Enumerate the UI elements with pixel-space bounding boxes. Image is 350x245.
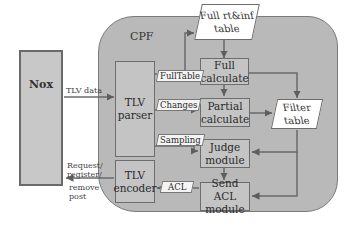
judge-module-line1: Judge bbox=[210, 141, 241, 154]
partial-calculate-line1: Partial bbox=[207, 100, 242, 113]
edge-tag-acl: ACL bbox=[160, 181, 195, 193]
tlv-encoder-line2: encoder bbox=[113, 182, 156, 195]
partial-calculate-line2: calculate bbox=[201, 113, 249, 126]
full-rt-inf-table-node: Full rt&inf table bbox=[194, 4, 260, 40]
full-calculate-line1: Full bbox=[214, 59, 235, 72]
full-calculate-node: Full calculate bbox=[200, 58, 249, 85]
edge-tag-sampling: Sampling bbox=[156, 134, 205, 146]
filter-table-line2: table bbox=[282, 114, 313, 127]
edge-label-register: register/ bbox=[67, 170, 102, 180]
send-acl-line2: module bbox=[205, 203, 244, 216]
nox-label: Nox bbox=[29, 78, 53, 91]
send-acl-module-node: Send ACL module bbox=[200, 182, 250, 211]
nox-node: Nox bbox=[19, 50, 63, 186]
edge-label-post: post bbox=[69, 192, 86, 202]
edge-tag-changes: Changes bbox=[156, 99, 202, 111]
edge-label-tlv-data: TLV data bbox=[66, 86, 102, 96]
filter-table-line1: Filter bbox=[282, 102, 313, 115]
full-calculate-line2: calculate bbox=[200, 72, 248, 85]
tlv-parser-line2: parser bbox=[118, 109, 153, 122]
tlv-parser-line1: TLV bbox=[125, 96, 145, 109]
edge-tag-fulltable: FullTable bbox=[156, 70, 205, 82]
send-acl-line1: Send ACL bbox=[201, 177, 249, 203]
full-table-line2: table bbox=[199, 22, 256, 35]
tlv-encoder-node: TLV encoder bbox=[115, 160, 155, 203]
judge-module-node: Judge module bbox=[200, 139, 250, 168]
full-table-line1: Full rt&inf bbox=[199, 10, 256, 23]
tlv-parser-node: TLV parser bbox=[115, 61, 155, 157]
judge-module-line2: module bbox=[205, 154, 244, 167]
tlv-encoder-line1: TLV bbox=[125, 169, 145, 182]
filter-table-node: Filter table bbox=[271, 99, 323, 129]
partial-calculate-node: Partial calculate bbox=[200, 98, 250, 127]
